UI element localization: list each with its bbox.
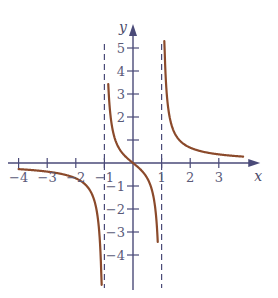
y-tick-label: −2 [106, 202, 125, 217]
function-graph: −4−3−2−11235432−1−2−3−4xy [0, 0, 278, 298]
x-axis-arrow-icon [248, 159, 260, 167]
y-axis-arrow-icon [129, 24, 137, 36]
y-tick-label: 4 [117, 64, 125, 79]
x-tick-label: 1 [157, 170, 165, 185]
x-tick-label: 2 [186, 170, 194, 185]
x-axis-label: x [254, 168, 262, 184]
y-tick-label: 5 [117, 41, 125, 56]
x-tick-label: −4 [9, 170, 28, 185]
curve-right-branch [164, 41, 243, 156]
x-tick-label: 3 [215, 170, 223, 185]
y-tick-label: −4 [106, 248, 125, 263]
y-tick-label: 3 [117, 87, 125, 102]
y-axis-label: y [118, 19, 128, 35]
axes [8, 24, 260, 290]
x-tick-label: −3 [38, 170, 57, 185]
y-tick-label: 2 [117, 110, 125, 125]
y-tick-label: −1 [106, 179, 125, 194]
tick-labels: −4−3−2−11235432−1−2−3−4xy [9, 19, 262, 263]
x-tick-label: −2 [66, 170, 85, 185]
curve-left-branch [19, 169, 102, 285]
y-tick-label: −3 [106, 225, 125, 240]
